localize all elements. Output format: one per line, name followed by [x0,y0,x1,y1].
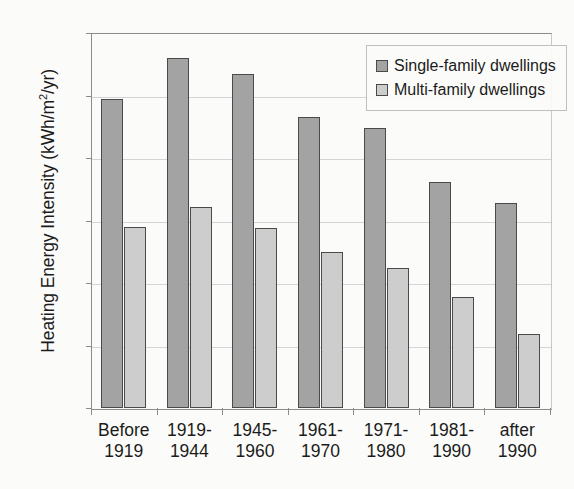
x-axis-category-label: Before1919 [91,420,157,462]
bar-group [91,33,157,408]
x-axis-category-line: Before [91,420,157,441]
bar-single-family [364,128,386,408]
x-axis-tick-mark [157,408,158,415]
x-axis-category-line: 1919 [91,441,157,462]
x-axis-category-line: 1961- [288,420,354,441]
bar-single-family [298,117,320,408]
x-axis-category-line: 1960 [222,441,288,462]
x-axis-category-line: 1981- [419,420,485,441]
legend-label-multi-family: Multi-family dwellings [394,81,545,99]
legend-item-single-family: Single-family dwellings [376,54,556,78]
x-axis-tick-mark [222,408,223,415]
x-axis-tick-mark [91,408,92,415]
legend-swatch-icon-single-family [376,60,388,72]
x-axis-tick-mark [484,408,485,415]
legend-swatch-icon-multi-family [376,84,388,96]
x-axis-category-label: 1961-1970 [288,420,354,462]
y-axis-title-main: Heating Energy Intensity (kWh/m [38,100,58,353]
legend: Single-family dwellings Multi-family dwe… [366,45,567,111]
x-axis-category-line: 1971- [353,420,419,441]
x-axis-category-label: 1981-1990 [419,420,485,462]
legend-item-multi-family: Multi-family dwellings [376,78,556,102]
x-axis-category-line: 1970 [288,441,354,462]
x-axis-category-line: 1945- [222,420,288,441]
bar-multi-family [387,268,409,408]
bar-multi-family [321,252,343,408]
bar-group [157,33,223,408]
x-axis-tick-mark [353,408,354,415]
x-axis-category-line: 1990 [484,441,550,462]
x-axis-tick-mark [550,408,551,415]
x-axis-category-line: 1919- [157,420,223,441]
x-axis-tick-mark [288,408,289,415]
y-axis-title: Heating Energy Intensity (kWh/m2/yr) [37,11,59,411]
bar-multi-family [190,207,212,408]
bar-single-family [495,203,517,408]
bar-single-family [167,58,189,408]
x-axis-category-line: after [484,420,550,441]
bar-multi-family [452,297,474,408]
bar-multi-family [518,334,540,408]
bar-single-family [101,99,123,408]
x-axis-category-line: 1990 [419,441,485,462]
bar-chart-figure: Heating Energy Intensity (kWh/m2/yr) 050… [0,0,574,489]
bar-single-family [429,182,451,408]
x-axis-category-label: 1945-1960 [222,420,288,462]
bar-multi-family [124,227,146,408]
y-axis-title-tail: /yr) [38,69,58,94]
x-axis-category-label: 1919-1944 [157,420,223,462]
bar-multi-family [255,228,277,408]
x-axis-category-label: 1971-1980 [353,420,419,462]
x-axis-category-line: 1980 [353,441,419,462]
legend-label-single-family: Single-family dwellings [394,57,556,75]
bar-group [288,33,354,408]
x-axis-tick-mark [419,408,420,415]
x-axis-category-label: after1990 [484,420,550,462]
bar-single-family [232,74,254,408]
bar-group [222,33,288,408]
x-axis-category-line: 1944 [157,441,223,462]
y-axis-title-superscript: 2 [37,94,49,100]
